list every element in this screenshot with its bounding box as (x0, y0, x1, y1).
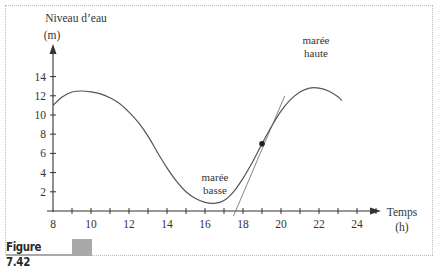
low-tide-label-line1: marée (202, 171, 229, 183)
figure-caption: Figure 7.42 (6, 239, 92, 254)
x-tick-label: 14 (161, 218, 173, 230)
y-tick-label: 2 (40, 186, 46, 198)
high-tide-label-line1: marée (303, 34, 330, 46)
tide-chart: 246810121481012141618202224 Niveau d’eau… (0, 0, 439, 267)
tangent-line (234, 96, 285, 216)
y-tick-label: 4 (40, 167, 46, 179)
y-tick-label: 6 (40, 147, 46, 159)
y-tick-label: 14 (35, 71, 47, 83)
tangent-point (259, 141, 265, 147)
x-tick-label: 22 (313, 218, 325, 230)
y-axis-arrow-icon (50, 44, 57, 54)
x-axis-label-line2: (h) (395, 221, 409, 234)
caption-accent-block (72, 239, 92, 254)
low-tide-label-line2: basse (203, 184, 227, 196)
high-tide-label-line2: haute (304, 47, 328, 59)
x-tick-label: 8 (50, 218, 56, 230)
y-axis-label-line1: Niveau d’eau (45, 12, 107, 24)
x-tick-label: 20 (275, 218, 287, 230)
x-tick-label: 16 (199, 218, 211, 230)
x-tick-label: 18 (237, 218, 249, 230)
y-tick-label: 10 (35, 109, 47, 121)
x-tick-label: 12 (123, 218, 135, 230)
y-axis-label-line2: (m) (44, 29, 61, 42)
caption-underline (6, 254, 92, 256)
y-tick-label: 8 (40, 128, 46, 140)
x-axis-label-line1: Temps (387, 206, 418, 219)
figure-caption-text: Figure 7.42 (6, 239, 60, 254)
x-tick-label: 10 (85, 218, 97, 230)
axis-ticks: 246810121481012141618202224 (35, 71, 377, 230)
x-tick-label: 24 (351, 218, 363, 230)
y-tick-label: 12 (35, 90, 47, 102)
water-level-curve (53, 88, 342, 204)
